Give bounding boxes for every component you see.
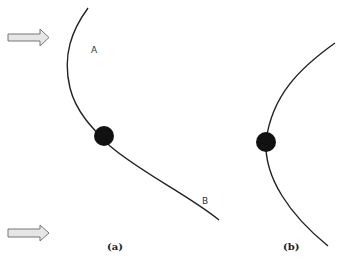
figure-canvas xyxy=(0,0,354,263)
caption-a: (a) xyxy=(107,241,123,252)
trajectory-curve-b xyxy=(266,43,335,246)
label-b: B xyxy=(202,196,208,206)
arrow-bottom-icon xyxy=(8,225,49,241)
ball-a xyxy=(94,126,114,146)
label-a: A xyxy=(91,45,97,55)
ball-b xyxy=(256,132,276,152)
caption-b: (b) xyxy=(283,241,299,252)
arrow-top-icon xyxy=(8,29,49,46)
trajectory-curve-a xyxy=(67,8,219,220)
